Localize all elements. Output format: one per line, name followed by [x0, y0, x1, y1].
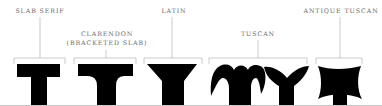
antique-tuscan-glyph [318, 66, 362, 106]
tuscan-glyph-2 [264, 66, 309, 106]
serif-diagram [0, 0, 382, 106]
tuscan-glyph-1 [211, 65, 266, 106]
slab-serif-glyph [17, 64, 60, 106]
latin-glyph [147, 64, 197, 106]
clarendon-glyph [78, 64, 133, 106]
leader-lines [14, 17, 362, 64]
